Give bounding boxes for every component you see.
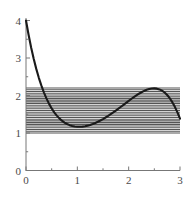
- y-tick-label: 2: [16, 90, 22, 102]
- y-tick-label: 4: [16, 15, 22, 27]
- x-tick-label: 2: [126, 174, 132, 186]
- x-tick-label: 1: [75, 174, 81, 186]
- hatched-region: [26, 88, 180, 133]
- y-tick-label: 0: [16, 165, 22, 177]
- x-tick-label: 0: [23, 174, 29, 186]
- plot-figure: 012301234: [0, 0, 194, 198]
- y-tick-label: 3: [16, 52, 22, 64]
- x-tick-label: 3: [177, 174, 183, 186]
- figure-background: [0, 0, 194, 198]
- y-tick-label: 1: [16, 127, 22, 139]
- plot-canvas: 012301234: [0, 0, 194, 198]
